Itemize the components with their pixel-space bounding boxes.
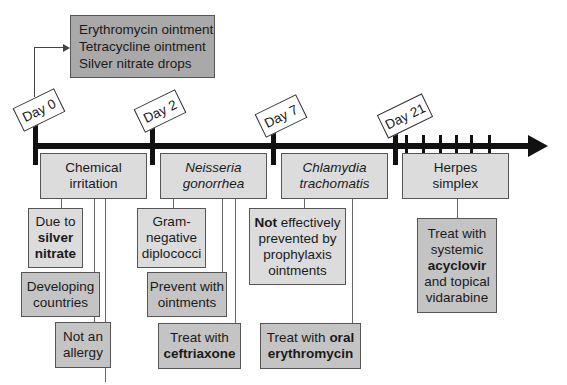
minor-tick [439,135,442,155]
note-emphasis: acyclovir [428,258,487,274]
condition-title: Chemical [65,160,121,176]
condition-title: gonorrhea [183,176,245,192]
note-text: ointments [268,263,327,279]
timeline-axis [33,143,533,149]
prophylaxis-item: Tetracycline ointment [79,38,206,55]
connector-line [61,199,62,208]
note-text: Due to [36,214,76,230]
note-text: Gram- [152,214,190,230]
note-text: Treat with [170,330,229,346]
note-text: diplococci [142,246,201,262]
note-text: countries [33,295,88,311]
condition-title: Chlamydia [303,160,367,176]
connector-line [235,199,236,323]
note-text: Treat with oral [267,330,354,346]
connector-line [34,47,35,97]
note-emphasis: oral [329,330,354,345]
note-treat-with-oral-erythromycin: Treat with oral erythromycin [260,323,361,369]
note-text: negative [146,230,197,246]
condition-herpes-simplex: Herpes simplex [402,153,509,199]
minor-tick [405,135,408,155]
note-emphasis: nitrate [35,246,76,262]
prophylaxis-item: Silver nitrate drops [79,55,192,72]
connector-line [457,199,458,218]
note-text: Prevent with [150,279,224,295]
arrowhead-icon [63,44,70,52]
minor-tick [455,135,458,155]
prophylaxis-options-box: Erythromycin ointment Tetracycline ointm… [70,15,215,78]
note-text: vidarabine [426,290,488,306]
note-not-prevented-by-ointments: Not effectively prevented by prophylaxis… [249,208,346,285]
note-text: effectively [277,215,341,230]
note-text: Treat with [267,330,330,345]
condition-title: simplex [433,176,479,192]
note-treat-with-acyclovir: Treat with systemic acyclovir and topica… [417,218,497,313]
connector-line [304,199,305,208]
note-emphasis: ceftriaxone [163,346,235,362]
connector-line [352,199,353,323]
note-text: Treat with [428,226,487,242]
note-emphasis: Not [254,215,277,230]
day-marker-21: Day 21 [377,93,433,138]
note-text: prophylaxis [263,247,331,263]
condition-title: trachomatis [300,176,370,192]
condition-chemical-irritation: Chemical irritation [40,153,147,199]
note-text: Developing [27,279,95,295]
note-text: Not an [63,329,103,345]
condition-neisseria-gonorrhea: Neisseria gonorrhea [160,153,267,199]
timeline-arrowhead-icon [528,135,548,157]
note-prevent-with-ointments: Prevent with ointments [147,272,227,317]
note-treat-with-ceftriaxone: Treat with ceftriaxone [158,323,241,369]
note-text: ointments [158,295,217,311]
note-text: Not effectively [254,215,340,231]
note-text: and topical [424,274,489,290]
connector-line [222,199,223,272]
condition-title: irritation [69,176,117,192]
note-emphasis: silver [38,230,73,246]
note-developing-countries: Developing countries [21,272,100,317]
note-text: allergy [63,345,103,361]
note-text: systemic [431,242,484,258]
prophylaxis-item: Erythromycin ointment [79,21,213,38]
connector-line [173,199,174,208]
condition-chlamydia-trachomatis: Chlamydia trachomatis [281,153,388,199]
minor-tick [488,135,491,155]
note-gram-negative-diplococci: Gram- negative diplococci [137,208,206,268]
day-marker-0: Day 0 [13,88,66,132]
note-due-to-silver-nitrate: Due to silver nitrate [28,208,83,268]
minor-tick [470,135,473,155]
condition-title: Herpes [434,160,478,176]
condition-title: Neisseria [185,160,241,176]
connector-line [34,47,64,48]
note-not-an-allergy: Not an allergy [55,322,111,368]
note-emphasis: erythromycin [268,346,354,362]
day-marker-2: Day 2 [134,89,187,133]
day-marker-7: Day 7 [255,94,308,138]
note-text: prevented by [258,231,336,247]
minor-tick [422,135,425,155]
